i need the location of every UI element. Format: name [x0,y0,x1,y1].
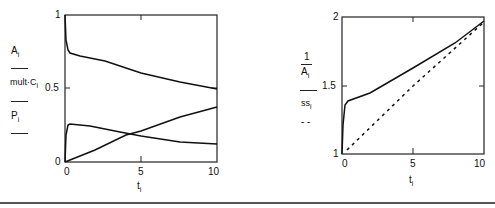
xlabel: ti [409,174,413,187]
ylabel-one: 1 [304,51,310,62]
right-plot-area [0,0,495,208]
xtick-0: 0 [342,158,348,169]
ytick-1: 1 [333,148,339,159]
ytick-2: 2 [333,11,339,22]
fraction-bar [301,64,312,65]
legend-line-ss: - - [301,116,310,127]
region-separator [0,202,495,204]
ytick-1.5: 1.5 [322,80,336,91]
xtick-5: 5 [410,158,416,169]
legend-line-inv-a [300,90,317,91]
ylabel-ss: ssi [301,98,312,110]
series-ss [347,22,484,150]
ylabel-a: Ai [301,66,309,79]
xtick-10: 10 [474,158,485,169]
